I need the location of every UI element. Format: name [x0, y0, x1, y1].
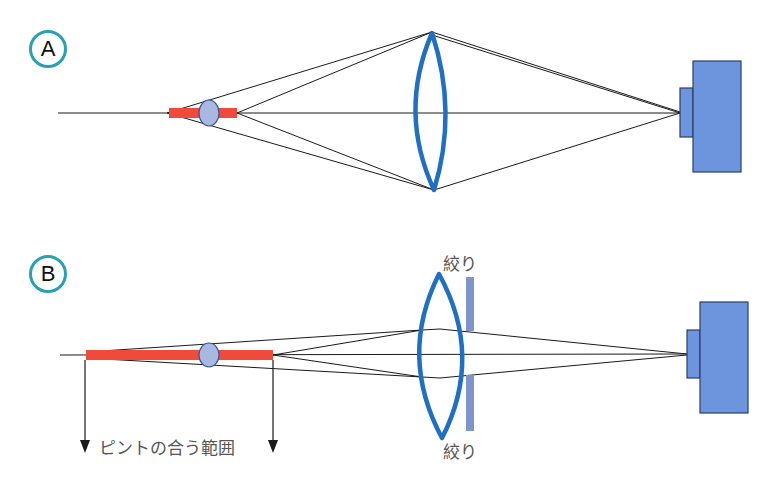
convex-lens-icon	[415, 33, 445, 190]
arrow-down-icon	[268, 360, 278, 453]
panel-label-b: B	[29, 255, 67, 293]
camera-icon	[687, 302, 748, 413]
panel-label-a: A	[29, 30, 67, 68]
depth-of-field-label: ピントの合う範囲	[99, 434, 235, 459]
arrow-down-icon	[80, 360, 90, 453]
camera-icon	[680, 61, 741, 172]
convex-lens-icon	[419, 274, 462, 438]
aperture-label-top: 絞り	[443, 250, 477, 275]
panel-b	[60, 274, 748, 453]
panel-label-b-text: B	[41, 261, 56, 287]
focus-zone-b	[86, 350, 273, 360]
subject-a	[199, 100, 219, 126]
panel-label-a-text: A	[41, 36, 56, 62]
panel-a	[58, 32, 741, 190]
optics-diagram	[0, 0, 779, 480]
subject-b	[199, 343, 219, 367]
aperture-label-bottom: 絞り	[443, 438, 477, 463]
